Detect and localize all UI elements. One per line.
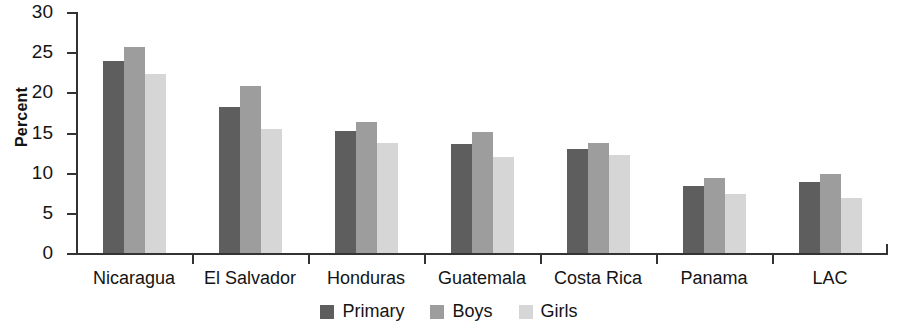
bar-primary-honduras [335,131,356,253]
x-label-panama: Panama [680,268,747,289]
x-separator-tick [540,255,542,264]
y-tick-0: 0 [67,253,76,255]
bar-group [683,12,746,253]
legend-label: Primary [342,301,404,322]
legend-swatch-icon [519,305,533,319]
bar-group [799,12,862,253]
bar-chart: Percent 051015202530 NicaraguaEl Salvado… [0,0,898,333]
y-tick-15: 15 [67,133,76,135]
x-separator-tick [772,255,774,264]
x-separator-tick [308,255,310,264]
bar-girls-honduras [377,143,398,253]
x-axis-line [76,253,888,255]
x-separator-tick [192,255,194,264]
bar-primary-guatemala [451,144,472,253]
y-tick-label: 20 [32,81,53,103]
y-axis-title: Percent [13,57,31,177]
bar-group [219,12,282,253]
bar-primary-lac [799,182,820,253]
bar-primary-el-salvador [219,107,240,253]
legend-swatch-icon [320,305,334,319]
y-tick-label: 0 [42,242,53,264]
y-tick-label: 30 [32,1,53,23]
x-separator-tick [656,255,658,264]
bar-boys-lac [820,174,841,253]
plot-area: 051015202530 NicaraguaEl SalvadorHondura… [76,12,888,253]
x-label-honduras: Honduras [327,268,405,289]
y-axis-line [76,12,78,254]
bar-primary-nicaragua [103,61,124,253]
legend-label: Boys [452,301,492,322]
bar-girls-costa-rica [609,155,630,253]
bar-girls-el-salvador [261,129,282,253]
bar-girls-nicaragua [145,74,166,253]
bar-girls-guatemala [493,157,514,253]
x-axis-end-tick [886,244,888,255]
x-label-costa-rica: Costa Rica [554,268,642,289]
bar-girls-panama [725,194,746,253]
y-tick-10: 10 [67,173,76,175]
bar-group [451,12,514,253]
legend-item-primary[interactable]: Primary [320,301,404,322]
legend-item-girls[interactable]: Girls [519,301,578,322]
bar-girls-lac [841,198,862,253]
y-tick-30: 30 [67,12,76,14]
x-label-el-salvador: El Salvador [204,268,296,289]
bar-group [103,12,166,253]
bar-boys-costa-rica [588,143,609,253]
bar-boys-guatemala [472,132,493,253]
bar-primary-costa-rica [567,149,588,253]
bar-boys-el-salvador [240,86,261,253]
y-tick-label: 25 [32,41,53,63]
y-tick-20: 20 [67,92,76,94]
legend-label: Girls [541,301,578,322]
bar-group [567,12,630,253]
y-tick-label: 15 [32,122,53,144]
legend-swatch-icon [430,305,444,319]
bar-boys-nicaragua [124,47,145,253]
x-separator-tick [424,255,426,264]
bar-primary-panama [683,186,704,253]
bar-boys-panama [704,178,725,254]
y-tick-label: 10 [32,162,53,184]
x-label-nicaragua: Nicaragua [93,268,175,289]
bar-group [335,12,398,253]
y-tick-25: 25 [67,52,76,54]
legend-item-boys[interactable]: Boys [430,301,492,322]
x-label-guatemala: Guatemala [438,268,526,289]
chart-legend: PrimaryBoysGirls [0,301,898,322]
y-tick-label: 5 [42,202,53,224]
bar-boys-honduras [356,122,377,253]
y-tick-5: 5 [67,213,76,215]
x-label-lac: LAC [812,268,847,289]
